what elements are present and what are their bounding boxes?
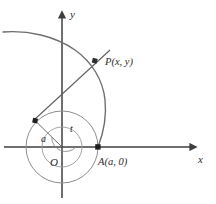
point-marker-tangent [32, 118, 38, 124]
radius-label-a: a [41, 133, 46, 144]
point-p-label: P(x, y) [104, 56, 133, 68]
radius-segment-a [36, 121, 63, 147]
y-axis-label: y [69, 8, 75, 20]
origin-label: O [50, 156, 58, 168]
involute-diagram-svg: y x O P(x, y) A(a, 0) a t [0, 0, 216, 204]
point-marker-a [95, 144, 100, 149]
angle-label-t: t [70, 123, 73, 134]
angle-arc-t [52, 137, 76, 151]
tangent-line-segment [34, 50, 110, 120]
x-axis-label: x [197, 153, 203, 165]
figure-container: y x O P(x, y) A(a, 0) a t [0, 0, 216, 204]
axes-group [4, 12, 196, 198]
involute-spiral-curve [3, 32, 106, 147]
point-a-label: A(a, 0) [97, 156, 128, 168]
